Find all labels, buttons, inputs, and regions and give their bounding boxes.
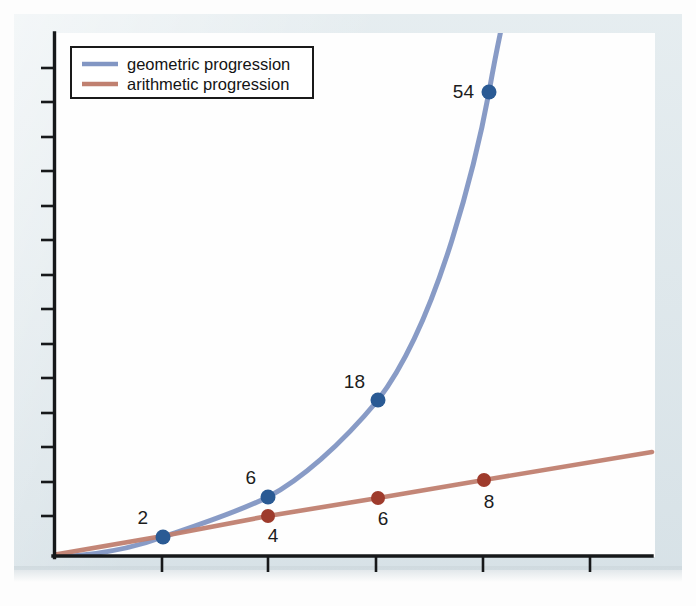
chart-legend: geometric progression arithmetic progres… xyxy=(71,47,313,98)
point-label-arithmetic-4: 8 xyxy=(484,491,495,512)
point-label-geometric-2: 6 xyxy=(245,467,256,488)
data-point-geometric-1[interactable] xyxy=(156,530,171,545)
geometric-markers xyxy=(156,85,497,545)
series-line-arithmetic xyxy=(53,452,652,555)
legend-label-geometric: geometric progression xyxy=(127,55,290,73)
data-point-arithmetic-3[interactable] xyxy=(371,491,385,505)
geometric-point-labels: 2 6 18 54 xyxy=(137,81,474,528)
series-line-geometric xyxy=(53,30,501,557)
data-point-arithmetic-2[interactable] xyxy=(261,509,275,523)
progression-line-chart: 2 6 18 54 4 6 8 geometric progression ar… xyxy=(0,0,696,606)
data-point-geometric-2[interactable] xyxy=(261,490,276,505)
legend-label-arithmetic: arithmetic progression xyxy=(127,75,289,93)
x-axis-ticks xyxy=(162,556,590,572)
series-layer xyxy=(53,30,652,557)
axes-layer xyxy=(41,33,652,572)
point-label-geometric-3: 18 xyxy=(344,371,365,392)
data-point-geometric-4[interactable] xyxy=(482,85,497,100)
point-label-geometric-1: 2 xyxy=(137,507,148,528)
data-point-geometric-3[interactable] xyxy=(371,393,386,408)
figure-root: 2 6 18 54 4 6 8 geometric progression ar… xyxy=(0,0,696,606)
point-label-arithmetic-2: 4 xyxy=(268,525,279,546)
point-label-geometric-4: 54 xyxy=(453,81,475,102)
data-point-arithmetic-4[interactable] xyxy=(477,473,491,487)
point-label-arithmetic-3: 6 xyxy=(378,508,389,529)
